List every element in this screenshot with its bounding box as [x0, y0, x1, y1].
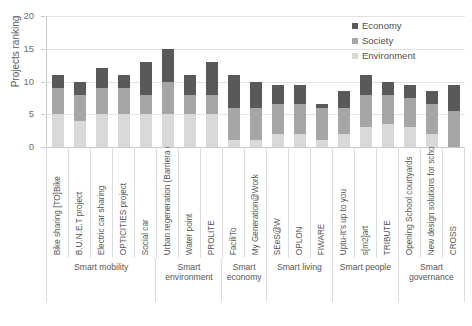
bar[interactable] [184, 75, 196, 147]
bar[interactable] [360, 75, 372, 147]
x-label-cell: Urban regeneration (Barriera di ... [157, 147, 179, 258]
bar-segment-society [448, 111, 460, 147]
legend-item-society[interactable]: Society [352, 33, 415, 48]
legend-item-economy[interactable]: Economy [352, 18, 415, 33]
group-cell: Smart environment [156, 258, 222, 302]
legend-swatch-icon [352, 53, 358, 59]
bar[interactable] [52, 75, 64, 147]
y-tick-mark-0 [41, 147, 45, 148]
bar-segment-society [162, 82, 174, 115]
bar-segment-economy [74, 82, 86, 95]
bar-segment-economy [360, 75, 372, 95]
bar-segment-environment [338, 134, 350, 147]
x-label-cell: OPLON [289, 147, 311, 258]
x-label-cell: B.U.N.E.T project [69, 147, 91, 258]
x-axis-tick-label: New design solutions for school ... [427, 147, 435, 255]
bar-segment-environment [426, 134, 438, 147]
x-axis-tick-label: CROSS [449, 226, 457, 255]
bar-segment-society [404, 98, 416, 127]
y-tick-label-0: 0 [0, 142, 34, 152]
bar-segment-society [74, 95, 86, 121]
x-axis-tick-label: Electric car sharing [97, 185, 105, 255]
bar-segment-economy [118, 75, 130, 88]
bar-segment-economy [162, 49, 174, 82]
x-axis-tick-label: PROLITE [207, 220, 215, 255]
bar-segment-economy [448, 85, 460, 111]
bar-slot [443, 16, 465, 147]
group-cell: Smart governance [399, 258, 465, 302]
bar[interactable] [206, 62, 218, 147]
y-axis-title: Projects ranking [10, 0, 21, 112]
bar[interactable] [382, 82, 394, 147]
x-label-cell: CROSS [443, 147, 465, 258]
bar-slot [69, 16, 91, 147]
x-axis-tick-label: SEeS@W [273, 218, 281, 255]
bar-segment-society [184, 95, 196, 115]
bar[interactable] [272, 85, 284, 147]
bar-segment-society [206, 95, 218, 115]
bar[interactable] [404, 85, 416, 147]
bar-segment-environment [96, 114, 108, 147]
x-label-cell: Social car [135, 147, 157, 258]
bar[interactable] [162, 49, 174, 147]
group-cell: Smart people [333, 258, 399, 302]
bar-segment-society [360, 95, 372, 128]
x-axis-tick-label: Opening School courtyards [405, 156, 413, 255]
y-tick-mark-20 [41, 16, 45, 17]
group-label: Smart living [277, 262, 322, 272]
bar-segment-environment [118, 114, 130, 147]
bar[interactable] [118, 75, 130, 147]
x-axis-labels: Bike sharing [TO]BikeB.U.N.E.T projectEl… [46, 147, 465, 258]
group-label: Smart people [340, 262, 391, 272]
bar-segment-environment [162, 114, 174, 147]
bar-segment-environment [382, 124, 394, 147]
bar-segment-environment [360, 127, 372, 147]
bar[interactable] [140, 62, 152, 147]
x-axis-tick-label: Urban regeneration (Barriera di ... [163, 147, 171, 255]
x-label-cell: SEeS@W [267, 147, 289, 258]
bar-slot [113, 16, 135, 147]
group-label: Smart mobility [74, 262, 128, 272]
bar[interactable] [448, 85, 460, 147]
bar[interactable] [228, 75, 240, 147]
bar-slot [267, 16, 289, 147]
x-axis-tick-label: TRIBUTE [383, 220, 391, 255]
bar-segment-economy [272, 85, 284, 105]
y-tick-mark-15 [41, 49, 45, 50]
bar[interactable] [426, 91, 438, 147]
bar-segment-society [250, 108, 262, 141]
bar-slot [201, 16, 223, 147]
bar-segment-economy [96, 68, 108, 88]
x-label-cell: s[m2]art [355, 147, 377, 258]
bar[interactable] [74, 82, 86, 147]
legend: EconomySocietyEnvironment [352, 18, 415, 63]
group-label: Smart economy [223, 262, 265, 282]
legend-label: Economy [362, 18, 402, 33]
legend-swatch-icon [352, 38, 358, 44]
bar-segment-society [140, 95, 152, 115]
x-label-cell: Opening School courtyards [399, 147, 421, 258]
bar-segment-environment [52, 114, 64, 147]
bar-segment-society [382, 95, 394, 124]
bar-segment-economy [206, 62, 218, 95]
bar-segment-society [52, 88, 64, 114]
bar-slot [157, 16, 179, 147]
bar[interactable] [294, 85, 306, 147]
bar-segment-economy [140, 62, 152, 95]
bar[interactable] [96, 68, 108, 147]
x-axis-tick-label: My Generation@Work [251, 174, 259, 255]
bar-segment-society [316, 108, 328, 141]
bar-segment-society [426, 104, 438, 133]
bar-segment-environment [272, 134, 284, 147]
legend-item-environment[interactable]: Environment [352, 48, 415, 63]
x-axis-tick-label: Bike sharing [TO]Bike [53, 176, 61, 255]
bar-segment-society [118, 88, 130, 114]
bar-slot [135, 16, 157, 147]
bar[interactable] [250, 82, 262, 147]
bar[interactable] [338, 91, 350, 147]
bar-segment-environment [206, 114, 218, 147]
bar[interactable] [316, 104, 328, 147]
bar-segment-economy [338, 91, 350, 107]
group-cell: Smart mobility [46, 258, 156, 302]
legend-label: Society [362, 33, 393, 48]
